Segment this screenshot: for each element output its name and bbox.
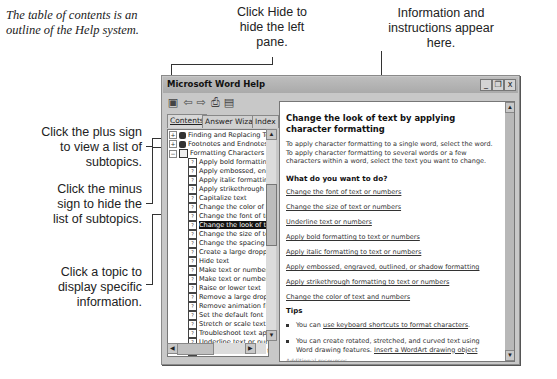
tree-item-topic[interactable]: ?Raise or lower text: [188, 284, 261, 293]
tip-item: You can create rotated, stretched, and c…: [286, 337, 496, 354]
topic-heading: Change the look of text by applying char…: [286, 113, 496, 135]
help-page-icon: ?: [188, 230, 197, 239]
tree-item-topic[interactable]: ?Make text or numbers s: [188, 266, 269, 275]
scroll-up-button[interactable]: ▲: [266, 129, 277, 140]
tree-item-topic[interactable]: ?Change the spacing bet: [188, 239, 269, 248]
tree-item-topic[interactable]: ?Stretch or scale text ho: [188, 320, 269, 329]
help-page-icon: ?: [188, 293, 197, 302]
tree-item-topic[interactable]: ?Remove a large droppe: [188, 293, 269, 302]
help-page-icon: ?: [188, 194, 197, 203]
what-do-you-want-heading: What do you want to do?: [286, 174, 387, 183]
leader-plus-v: [152, 138, 153, 147]
help-page-icon: ?: [188, 311, 197, 320]
tab-contents[interactable]: Contents: [167, 114, 207, 128]
tree-item-topic[interactable]: ?Apply bold formatting to: [188, 158, 269, 167]
help-page-icon: ?: [188, 185, 197, 194]
tree-horizontal-scrollbar[interactable]: ◀ ▶: [167, 343, 266, 354]
restore-button[interactable]: ❐: [492, 79, 504, 91]
tip-item: You can use keyboard shortcuts to format…: [286, 321, 496, 330]
help-page-icon: ?: [188, 158, 197, 167]
leader-minus-v: [152, 147, 153, 204]
help-page-icon: ?: [188, 329, 197, 338]
tree-item-formatting-paragraphs[interactable]: +Formatting Paragraphs: [169, 356, 263, 357]
link-apply-bold[interactable]: Apply bold formatting to text or numbers: [286, 233, 420, 241]
help-page-icon: ?: [188, 266, 197, 275]
help-page-icon: ?: [188, 203, 197, 212]
link-keyboard-shortcuts[interactable]: use keyboard shortcuts to format charact…: [323, 321, 468, 329]
help-page-icon: ?: [188, 212, 197, 221]
tree-item-topic[interactable]: ?Change the color of tex: [188, 203, 269, 212]
callout-hide-pane: Click Hide to hide the left pane.: [232, 5, 312, 50]
intro-caption: The table of contents is an outline of t…: [6, 8, 146, 38]
forward-icon[interactable]: ⇨: [194, 96, 208, 110]
link-apply-strikethrough[interactable]: Apply strikethrough formatting to text o…: [286, 278, 449, 286]
scroll-down-button[interactable]: ▼: [266, 330, 277, 341]
tree-item-topic[interactable]: ?Capitalize text: [188, 194, 247, 203]
print-icon[interactable]: ⎙: [208, 96, 222, 110]
hide-pane-icon[interactable]: ▣: [166, 96, 180, 110]
book-icon: [179, 141, 186, 148]
callout-plus-sign: Click the plus sign to view a list of su…: [40, 125, 142, 170]
tree-item-footnotes[interactable]: +Footnotes and Endnotes: [169, 140, 268, 149]
tips-heading: Tips: [286, 307, 302, 315]
help-page-icon: ?: [188, 239, 197, 248]
tree-item-topic[interactable]: ?Change the font of text: [188, 212, 269, 221]
tree-item-topic[interactable]: ?Apply italic formatting t: [188, 176, 269, 185]
leader-hide-up: [272, 57, 273, 65]
navigation-pane: Contents Answer Wizard Index +Finding an…: [164, 113, 277, 360]
help-page-icon: ?: [188, 302, 197, 311]
expand-icon[interactable]: +: [169, 140, 177, 148]
tree-item-topic-selected[interactable]: ?Change the look of text: [188, 221, 269, 230]
help-content-pane: Change the look of text by applying char…: [279, 101, 515, 362]
leader-topic-v: [152, 214, 153, 285]
content-vertical-scrollbar[interactable]: ▲ ▼: [505, 102, 514, 361]
tree-item-finding-replacing[interactable]: +Finding and Replacing Tex: [169, 131, 269, 140]
scroll-up-button[interactable]: ▲: [505, 102, 515, 113]
collapse-icon[interactable]: −: [169, 150, 177, 158]
contents-tree: +Finding and Replacing Tex +Footnotes an…: [167, 129, 269, 357]
link-change-color[interactable]: Change the color of text and numbers: [286, 293, 410, 301]
link-change-size[interactable]: Change the size of text or numbers: [286, 203, 401, 211]
tree-item-topic[interactable]: ?Troubleshoot text appe: [188, 329, 269, 338]
leader-hide-top: [171, 64, 273, 65]
title-bar[interactable]: Microsoft Word Help _ ❐ x: [163, 77, 518, 93]
tree-item-topic[interactable]: ?Change the size of text: [188, 230, 269, 239]
additional-resources[interactable]: Additional resources: [286, 357, 347, 362]
help-page-icon: ?: [188, 176, 197, 185]
tree-item-topic[interactable]: ?Create a large dropped: [188, 248, 269, 257]
tree-item-topic[interactable]: ?Apply embossed, engra: [188, 167, 269, 176]
scroll-right-button[interactable]: ▶: [245, 343, 256, 354]
expand-icon[interactable]: +: [169, 356, 177, 357]
expand-icon[interactable]: +: [169, 131, 177, 139]
link-change-font[interactable]: Change the font of text or numbers: [286, 188, 401, 196]
close-button[interactable]: x: [504, 79, 516, 91]
bullet-icon: [286, 324, 289, 327]
link-underline[interactable]: Underline text or numbers: [286, 218, 372, 226]
callout-topic: Click a topic to display specific inform…: [40, 265, 142, 310]
options-icon[interactable]: ▤: [222, 96, 236, 110]
book-icon: [179, 132, 186, 139]
horizontal-scroll-thumb[interactable]: [177, 343, 214, 355]
link-apply-italic[interactable]: Apply italic formatting to text or numbe…: [286, 248, 421, 256]
help-page-icon: ?: [188, 320, 197, 329]
open-book-icon: [179, 149, 188, 158]
help-page-icon: ?: [188, 221, 197, 230]
help-window: Microsoft Word Help _ ❐ x ▣ ⇦ ⇨ ⎙ ▤ Cont…: [161, 75, 520, 365]
help-page-icon: ?: [188, 284, 197, 293]
link-insert-wordart[interactable]: Insert a WordArt drawing object: [374, 346, 477, 354]
tree-item-topic[interactable]: ?Apply strikethrough form: [188, 185, 269, 194]
tree-vertical-scrollbar[interactable]: ▲ ▼: [266, 129, 276, 341]
link-apply-embossed[interactable]: Apply embossed, engraved, outlined, or s…: [286, 263, 480, 271]
tree-item-topic[interactable]: ?Hide text: [188, 257, 229, 266]
help-page-icon: ?: [188, 257, 197, 266]
back-icon[interactable]: ⇦: [181, 96, 195, 110]
tab-index[interactable]: Index: [252, 115, 279, 128]
window-title: Microsoft Word Help: [167, 79, 265, 89]
scroll-thumb[interactable]: [266, 184, 277, 246]
tree-item-formatting-characters[interactable]: −Formatting Characters: [169, 149, 264, 158]
tree-item-topic[interactable]: ?Set the default font: [188, 311, 263, 320]
tree-item-topic[interactable]: ?Make text or numbers s: [188, 275, 269, 284]
scroll-down-button[interactable]: ▼: [505, 350, 515, 361]
minimize-button[interactable]: _: [480, 79, 492, 91]
tree-item-topic[interactable]: ?Remove animation from: [188, 302, 269, 311]
